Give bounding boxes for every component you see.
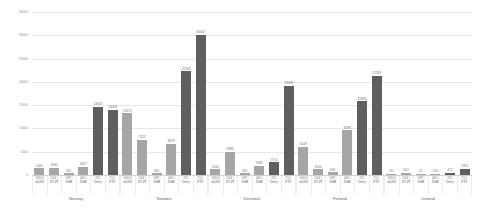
x-axis-tick-label: 554 |RTSP [399, 176, 414, 194]
bar-value-label: 345 [154, 169, 159, 173]
x-axis-tick-label: 23 |Telnet [90, 176, 105, 194]
bar-value-label: 213 [433, 169, 438, 173]
bar-value-label: 7522 [138, 135, 145, 139]
x-axis-tick-label: 139 |SMB [149, 176, 164, 194]
x-axis-group: 5353 |mDNS554 |RTSP139 |SMB445 |SMB23 |T… [296, 176, 384, 194]
bar[interactable]: 1600 [49, 168, 59, 175]
bar-value-label: 30047 [196, 30, 205, 34]
x-axis-tick-label: 23 |Telnet [442, 176, 457, 194]
bar-slot: 21283 [369, 12, 384, 175]
bar-slot: 14647 [91, 12, 106, 175]
bar[interactable]: 345 [152, 173, 162, 175]
bar-group: 6109120462695991586021283 [296, 12, 384, 175]
x-axis-tick-label: 445 |SMB [164, 176, 179, 194]
x-axis-tick-label: 139 |SMB [325, 176, 340, 194]
bar[interactable]: 15860 [357, 101, 367, 175]
bar[interactable]: 14008 [108, 110, 118, 175]
bar-slot: 7522 [135, 12, 150, 175]
bar-value-label: 1600 [50, 163, 57, 167]
bar-value-label: 1351 [461, 164, 468, 168]
y-axis-tick-label: 5000 [21, 150, 28, 154]
y-axis-tick-label: 0 [26, 173, 28, 177]
bar-slot: 14008 [105, 12, 120, 175]
bar[interactable]: 4983 [225, 152, 235, 175]
bar-value-label: 502 [403, 168, 408, 172]
bar-value-label: 1461 [36, 164, 43, 168]
x-axis-tick-label: 554 |RTSP [47, 176, 62, 194]
x-axis-country-labels: NorwaySwedenDenmarkFinlandIceland [32, 196, 472, 206]
plot-area: 1461160034118271464714008132727522345667… [32, 12, 472, 175]
bar-value-label: 22263 [182, 67, 191, 71]
bar[interactable]: 65 [386, 174, 396, 175]
bar[interactable]: 13272 [122, 113, 132, 175]
bar[interactable]: 502 [401, 173, 411, 175]
y-axis-tick-label: 10000 [19, 126, 28, 130]
bar[interactable]: 21283 [372, 76, 382, 175]
bar-value-label: 1204 [212, 165, 219, 169]
bar[interactable]: 9599 [342, 130, 352, 175]
bar[interactable]: 341 [64, 173, 74, 175]
bar[interactable]: 21 [416, 174, 426, 175]
bar-groups: 1461160034118271464714008132727522345667… [32, 12, 472, 175]
bar-value-label: 1960 [256, 161, 263, 165]
x-axis-tick-label: 5353 |mDNS [120, 176, 135, 194]
bar[interactable]: 417 [445, 173, 455, 175]
bar[interactable]: 1461 [34, 168, 44, 175]
x-axis-tick-label: 139 |SMB [413, 176, 428, 194]
bar[interactable]: 14647 [93, 107, 103, 175]
x-axis-tick-label: 21 |FTP [457, 176, 473, 194]
bar-value-label: 1204 [314, 165, 321, 169]
bar[interactable]: 19098 [284, 86, 294, 175]
x-axis-port-labels: 5353 |mDNS554 |RTSP139 |SMB445 |SMB23 |T… [32, 176, 472, 194]
bar-group: 13272752234566792226330047 [120, 12, 208, 175]
bar-group: 65502212134171351 [384, 12, 472, 175]
y-axis-tick-label: 25000 [19, 57, 28, 61]
bar[interactable]: 1351 [460, 169, 470, 175]
bar-value-label: 355 [242, 169, 247, 173]
bar[interactable]: 2714 [269, 162, 279, 175]
x-axis-tick-label: 21 |FTP [281, 176, 297, 194]
country-label: Iceland [384, 196, 472, 206]
x-axis-tick-label: 21 |FTP [105, 176, 121, 194]
bar-slot: 13272 [120, 12, 135, 175]
x-axis-tick-label: 445 |SMB [252, 176, 267, 194]
bar[interactable]: 1204 [210, 169, 220, 175]
bar-slot: 341 [61, 12, 76, 175]
bar-value-label: 626 [330, 168, 335, 172]
x-axis-tick-label: 445 |SMB [428, 176, 443, 194]
bar-slot: 1827 [76, 12, 91, 175]
bar[interactable]: 1827 [78, 167, 88, 176]
bar[interactable]: 30047 [196, 35, 206, 175]
bar-slot: 15860 [355, 12, 370, 175]
bar-value-label: 2714 [270, 158, 277, 162]
bar-value-label: 14008 [108, 105, 117, 109]
bar-slot: 417 [443, 12, 458, 175]
bar-value-label: 15860 [358, 97, 367, 101]
x-axis-tick-label: 554 |RTSP [135, 176, 150, 194]
bar[interactable]: 213 [430, 174, 440, 175]
bar-value-label: 341 [66, 169, 71, 173]
bar-slot: 355 [237, 12, 252, 175]
country-label: Sweden [120, 196, 208, 206]
bar[interactable]: 7522 [137, 140, 147, 175]
bar-slot: 30047 [193, 12, 208, 175]
bar[interactable]: 6679 [166, 144, 176, 175]
x-axis-group: 5353 |mDNS554 |RTSP139 |SMB445 |SMB23 |T… [32, 176, 120, 194]
bar[interactable]: 1204 [313, 169, 323, 175]
bar-group: 1461160034118271464714008 [32, 12, 120, 175]
x-axis-tick-label: 139 |SMB [237, 176, 252, 194]
country-label: Norway [32, 196, 120, 206]
x-axis-group: 5353 |mDNS554 |RTSP139 |SMB445 |SMB23 |T… [208, 176, 296, 194]
bar-slot: 1600 [47, 12, 62, 175]
bar[interactable]: 22263 [181, 71, 191, 175]
bar-value-label: 9599 [344, 126, 351, 130]
bar[interactable]: 6109 [298, 147, 308, 175]
bar[interactable]: 626 [328, 172, 338, 175]
bar-slot: 65 [384, 12, 399, 175]
x-axis-tick-label: 445 |SMB [76, 176, 91, 194]
bar[interactable]: 1960 [254, 166, 264, 175]
x-axis-tick-label: 23 |Telnet [266, 176, 281, 194]
x-axis-tick-label: 23 |Telnet [178, 176, 193, 194]
bar[interactable]: 355 [240, 173, 250, 175]
country-label: Denmark [208, 196, 296, 206]
